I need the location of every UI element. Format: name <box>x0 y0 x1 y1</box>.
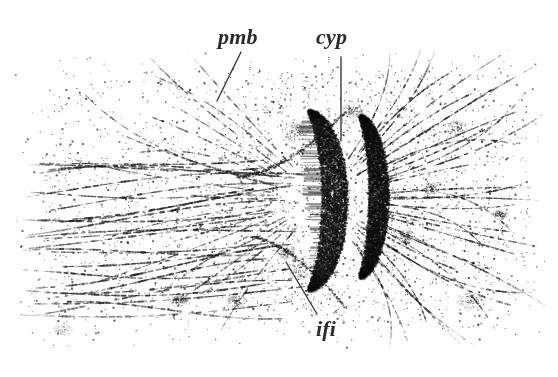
illustration-canvas <box>0 0 558 377</box>
label-pmb: pmb <box>218 26 258 48</box>
label-ifi: ifi <box>316 318 336 340</box>
label-cyp: cyp <box>316 26 347 48</box>
figure-plate: pmb cyp ifi <box>0 0 558 377</box>
